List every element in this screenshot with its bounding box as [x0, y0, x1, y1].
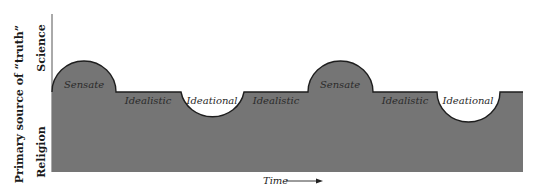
phase-label-sensate-1: Sensate [64, 79, 104, 90]
y-axis-top-label: Science [35, 24, 48, 72]
right-arrow-icon [286, 179, 323, 184]
phase-label-ideational-1: Ideational [185, 95, 237, 106]
truth-wave-area [52, 61, 523, 172]
y-axis-title: Primary source of “truth” [13, 25, 26, 183]
x-axis-label: Time [263, 175, 288, 186]
phase-label-idealistic-3: Idealistic [381, 95, 429, 106]
y-axis-bottom-label: Religion [35, 126, 48, 178]
cyclical-truth-diagram: Sensate Idealistic Ideational Idealistic… [0, 0, 537, 194]
phase-label-idealistic-2: Idealistic [252, 95, 300, 106]
phase-label-sensate-2: Sensate [320, 79, 360, 90]
phase-label-ideational-2: Ideational [441, 95, 493, 106]
phase-label-idealistic-1: Idealistic [124, 95, 172, 106]
